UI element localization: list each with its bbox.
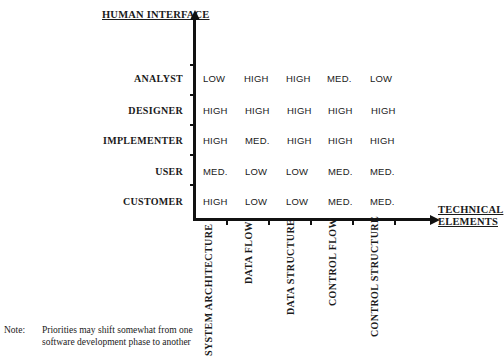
x-axis-tick — [394, 221, 396, 225]
cell: MED. — [328, 196, 353, 208]
column-label-data-flow: DATA FLOW — [243, 221, 255, 284]
x-axis-title-line2: ELEMENTS — [438, 216, 503, 228]
row-label-implementer: IMPLEMENTER — [63, 135, 183, 147]
cell: HIGH — [370, 135, 395, 147]
arrow-right-icon — [430, 215, 440, 225]
cell: LOW — [245, 166, 267, 178]
note-label: Note: — [4, 324, 42, 336]
cell: MED. — [328, 166, 353, 178]
note-line1: Priorities may shift somewhat from one — [42, 325, 193, 335]
cell: MED. — [245, 135, 270, 147]
cell: MED. — [203, 166, 228, 178]
column-label-control-flow: CONTROL FLOW — [327, 218, 339, 306]
y-axis-tick — [190, 64, 194, 66]
cell: LOW — [370, 73, 392, 85]
x-axis-tick — [310, 221, 312, 225]
row-label-designer: DESIGNER — [63, 105, 183, 117]
cell: HIGH — [328, 135, 353, 147]
y-axis-line — [193, 18, 196, 221]
cell: HIGH — [286, 73, 311, 85]
y-axis-tick — [190, 94, 194, 96]
cell: HIGH — [203, 196, 228, 208]
cell: MED. — [327, 73, 352, 85]
y-axis-tick — [190, 154, 194, 156]
cell: LOW — [286, 196, 308, 208]
row-label-analyst: ANALYST — [63, 73, 183, 85]
cell: HIGH — [371, 105, 396, 117]
note-line2: software development phase to another — [4, 336, 193, 348]
cell: LOW — [203, 73, 225, 85]
column-label-system-architecture: SYSTEM ARCHITECTURE — [203, 224, 215, 356]
row-label-customer: CUSTOMER — [63, 196, 183, 208]
cell: MED. — [370, 196, 395, 208]
x-axis-title-line1: TECHNICAL — [438, 204, 503, 216]
x-axis-tick — [268, 221, 270, 225]
cell: MED. — [370, 166, 395, 178]
x-axis-line — [193, 218, 433, 221]
cell: LOW — [245, 196, 267, 208]
x-axis-title: TECHNICAL ELEMENTS — [438, 204, 503, 228]
cell: HIGH — [244, 73, 269, 85]
cell: HIGH — [287, 135, 312, 147]
column-label-data-structure: DATA STRUCTURE — [285, 219, 297, 315]
x-axis-tick — [352, 221, 354, 225]
arrow-up-icon — [190, 10, 200, 20]
cell: HIGH — [203, 105, 228, 117]
footnote: Note:Priorities may shift somewhat from … — [4, 324, 193, 348]
cell: HIGH — [245, 105, 270, 117]
cell: HIGH — [287, 105, 312, 117]
column-label-control-structure: CONTROL STRUCTURE — [369, 216, 381, 337]
row-label-user: USER — [63, 166, 183, 178]
cell: HIGH — [203, 135, 228, 147]
x-axis-tick — [226, 221, 228, 225]
y-axis-tick — [190, 124, 194, 126]
cell: HIGH — [328, 105, 353, 117]
y-axis-tick — [190, 184, 194, 186]
cell: LOW — [286, 166, 308, 178]
